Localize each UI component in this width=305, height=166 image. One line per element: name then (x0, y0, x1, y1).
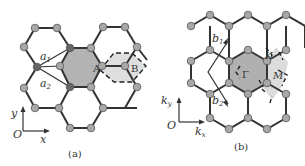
label-y-axis: y (10, 107, 18, 120)
label-gamma: Γ (242, 69, 249, 80)
caption-a: (a) (68, 148, 82, 159)
figure-canvas: a1 a2 A B y O x (a) (0, 0, 305, 166)
label-origin-a: O (13, 128, 22, 141)
label-x-axis: x (40, 133, 47, 146)
label-M: M (272, 70, 284, 81)
label-a1: a1 (40, 50, 51, 64)
label-a2: a2 (40, 77, 52, 91)
label-b2: b2 (212, 94, 224, 108)
label-K: K (264, 50, 273, 61)
axes-k (177, 97, 206, 125)
panel-a: a1 a2 A B y O x (a) (10, 23, 147, 159)
label-b1: b1 (212, 32, 224, 46)
label-ky: ky (161, 94, 173, 108)
label-site-B: B (131, 63, 138, 74)
caption-b: (b) (234, 141, 248, 152)
label-site-A: A (92, 63, 101, 74)
label-kx: kx (195, 125, 206, 139)
label-origin-b: O (167, 119, 176, 132)
panel-b: b1 b2 Γ K M ky O kx (b) (161, 11, 305, 152)
